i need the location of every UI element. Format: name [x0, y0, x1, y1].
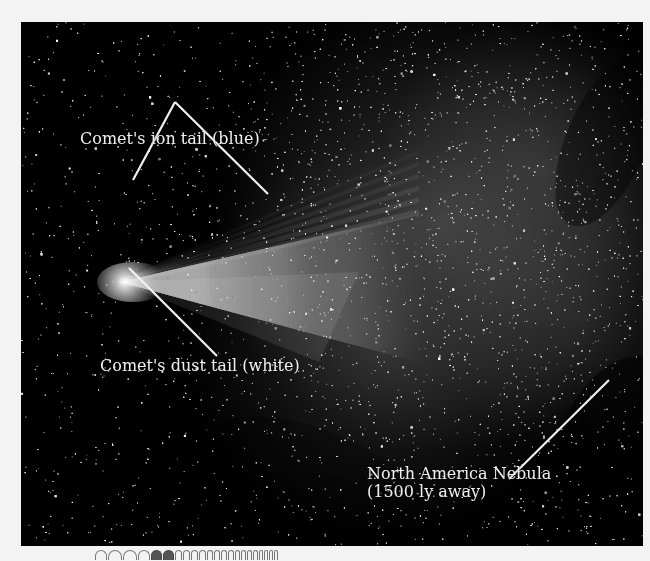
wave-arc: [108, 550, 122, 560]
leader-line: [175, 102, 268, 194]
label-dust-tail: Comet's dust tail (white): [100, 356, 300, 375]
wave-arc: [228, 550, 234, 560]
label-nebula-name: North America Nebula: [367, 464, 551, 483]
wave-arc: [259, 550, 263, 560]
wave-arc: [175, 550, 182, 560]
label-ion-tail: Comet's ion tail (blue): [80, 129, 260, 148]
wave-arc: [274, 550, 278, 560]
wave-arc: [269, 550, 273, 560]
wave-arc: [163, 550, 174, 560]
wave-arc: [183, 550, 190, 560]
wave-arc: [95, 550, 107, 560]
wave-arc: [191, 550, 198, 560]
wave-arc: [221, 550, 227, 560]
wave-arc: [247, 550, 252, 560]
wave-arc: [253, 550, 258, 560]
wave-arc: [199, 550, 206, 560]
label-nebula-distance: (1500 ly away): [367, 482, 486, 501]
wave-arc: [123, 550, 137, 560]
leader-line: [129, 268, 217, 356]
wave-arc: [214, 550, 220, 560]
wave-arc: [207, 550, 213, 560]
wavelength-strip: [95, 548, 278, 560]
comet-photo: Comet's ion tail (blue) Comet's dust tai…: [21, 22, 643, 546]
wave-arc: [264, 550, 268, 560]
wave-arc: [138, 550, 150, 560]
wave-arc: [235, 550, 240, 560]
wave-arc: [151, 550, 162, 560]
wave-arc: [241, 550, 246, 560]
